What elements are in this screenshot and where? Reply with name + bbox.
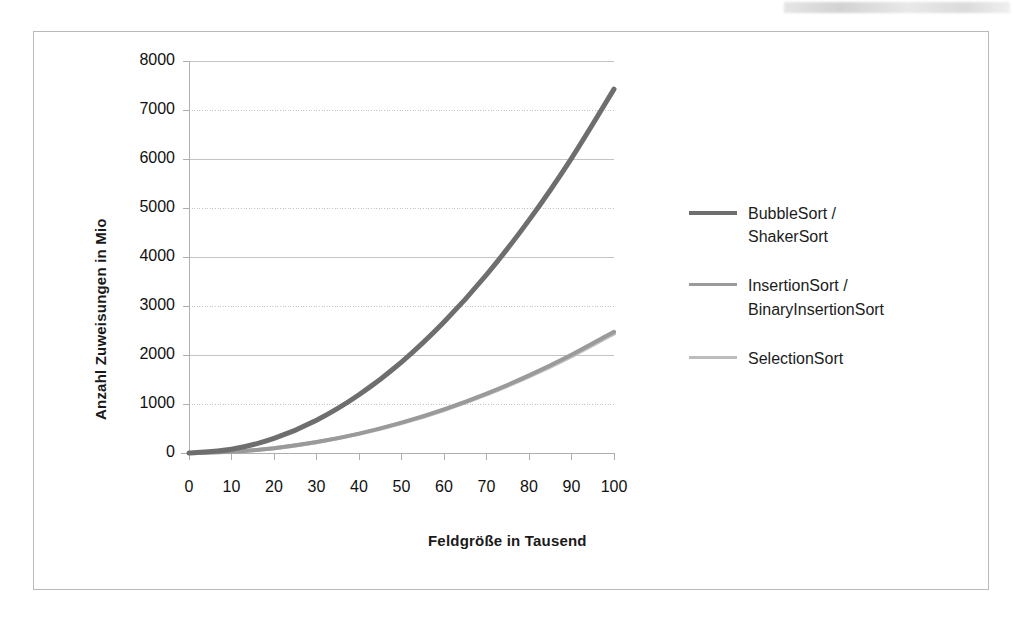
y-tick-label: 7000 <box>105 100 175 118</box>
y-tick-label: 0 <box>105 443 175 461</box>
legend-label: BubbleSort / ShakerSort <box>748 202 836 248</box>
legend-item: BubbleSort / ShakerSort <box>689 202 979 248</box>
x-axis-title: Feldgröße in Tausend <box>428 532 587 549</box>
y-tick-label: 6000 <box>105 149 175 167</box>
scan-artifact <box>784 2 1010 13</box>
legend-label: InsertionSort / BinaryInsertionSort <box>748 274 884 320</box>
x-tick-label: 40 <box>339 478 379 496</box>
chart-frame: Anzahl Zuweisungen in Mio Feldgröße in T… <box>33 31 989 590</box>
series-line <box>189 89 614 453</box>
legend-item: SelectionSort <box>689 347 979 370</box>
x-tick-label: 90 <box>552 478 592 496</box>
y-tick-label: 3000 <box>105 296 175 314</box>
y-tick-label: 1000 <box>105 394 175 412</box>
x-tick-label: 60 <box>424 478 464 496</box>
y-tick-label: 8000 <box>105 51 175 69</box>
chart-legend: BubbleSort / ShakerSortInsertionSort / B… <box>689 202 979 396</box>
x-tick-label: 70 <box>467 478 507 496</box>
legend-swatch <box>689 283 737 286</box>
series-line <box>189 332 614 453</box>
legend-item: InsertionSort / BinaryInsertionSort <box>689 274 979 320</box>
x-tick-label: 10 <box>212 478 252 496</box>
y-tick-label: 4000 <box>105 247 175 265</box>
legend-swatch <box>689 356 737 359</box>
y-tick-label: 5000 <box>105 198 175 216</box>
x-tick-label: 100 <box>594 478 634 496</box>
x-tick-label: 80 <box>509 478 549 496</box>
legend-swatch <box>689 211 737 215</box>
legend-label: SelectionSort <box>748 347 843 370</box>
x-tick-label: 50 <box>382 478 422 496</box>
x-tick-label: 20 <box>254 478 294 496</box>
y-tick-label: 2000 <box>105 345 175 363</box>
x-tick-label: 0 <box>169 478 209 496</box>
x-tick-label: 30 <box>297 478 337 496</box>
series-line <box>189 333 614 453</box>
